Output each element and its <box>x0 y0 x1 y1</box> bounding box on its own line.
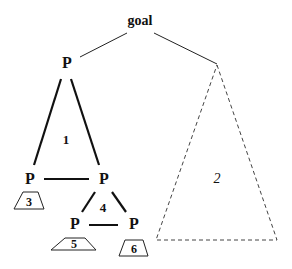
goal-label: goal <box>128 13 153 28</box>
region-4-label: 4 <box>100 200 107 215</box>
node-p-low-left: P <box>70 215 80 232</box>
proof-tree-diagram: goal P 1 P P 3 4 P P 5 6 2 <box>0 0 292 269</box>
region-1-label: 1 <box>63 132 70 147</box>
edge-goal-to-dashed-subtree <box>154 33 217 64</box>
node-p-mid-right: P <box>99 170 109 187</box>
node-p-mid-left: P <box>25 170 35 187</box>
region-6-label: 6 <box>131 242 137 256</box>
region-2-label: 2 <box>214 171 221 186</box>
node-p-low-right: P <box>129 215 139 232</box>
region-5-label: 5 <box>71 237 77 251</box>
node-p-top: P <box>62 54 72 71</box>
edge-goal-to-p <box>80 33 127 57</box>
edge-p-mid-right-to-low-right <box>112 192 126 212</box>
edge-p-mid-right-to-low-left <box>82 192 95 212</box>
region-3-label: 3 <box>26 195 32 209</box>
subtree-2-dashed-triangle <box>156 65 277 240</box>
edge-p-top-right <box>71 79 99 165</box>
edge-p-top-left <box>34 79 61 165</box>
